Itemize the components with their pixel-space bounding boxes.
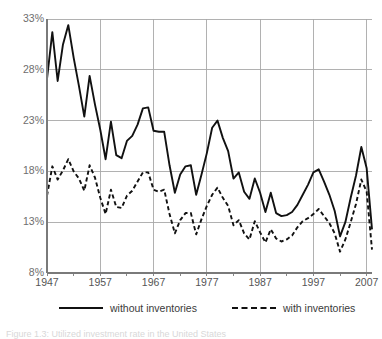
figure-container: 33%28%23%18%13%8% 1947195719671977198719…: [0, 0, 382, 339]
x-axis-labels: 1947195719671977198719972007: [0, 0, 382, 339]
legend-swatch-dashed-icon: [232, 307, 276, 309]
x-axis-tick-label: 1957: [89, 276, 112, 288]
x-axis-tick-label: 1967: [142, 276, 165, 288]
x-axis-tick-label: 1947: [35, 276, 58, 288]
x-axis-tick-label: 1977: [195, 276, 218, 288]
figure-caption: Figure 1.3: Utilized investment rate in …: [6, 330, 376, 339]
x-axis-tick-label: 2007: [355, 276, 378, 288]
legend-swatch-solid-icon: [59, 307, 103, 309]
legend-item-with-inventories: with inventories: [232, 300, 355, 316]
x-axis-tick-label: 1987: [248, 276, 271, 288]
legend-label-with-inventories: with inventories: [283, 302, 355, 314]
x-axis-tick-label: 1997: [302, 276, 325, 288]
legend-item-without-inventories: without inventories: [59, 300, 197, 316]
chart-legend: without inventories with inventories: [47, 300, 372, 316]
legend-label-without-inventories: without inventories: [110, 302, 197, 314]
